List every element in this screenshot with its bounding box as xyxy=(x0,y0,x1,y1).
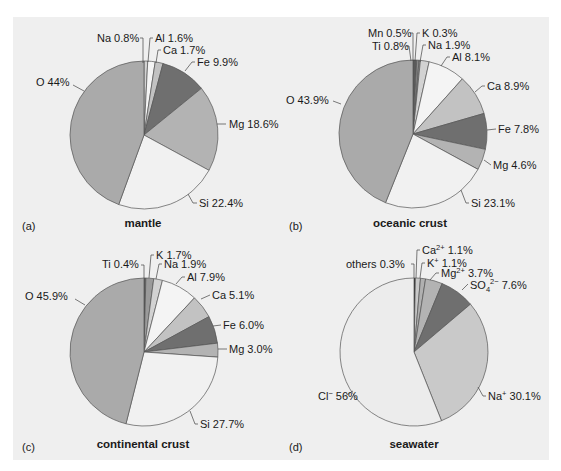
leader-ca2 xyxy=(416,250,420,278)
leader-al xyxy=(441,57,450,66)
leader-si xyxy=(190,411,198,424)
label-oceanic-si: Si 23.1% xyxy=(471,197,515,209)
leader-mg2 xyxy=(430,273,439,280)
pie-chart-mantle: Na 0.8% Al 1.6% Ca 1.7% Fe 9.9% Mg 18.6%… xyxy=(22,32,279,232)
chart-title-continental-crust: continental crust xyxy=(97,438,190,450)
label-continental-na: Na 1.9% xyxy=(164,258,206,270)
label-oceanic-ca: Ca 8.9% xyxy=(487,80,529,92)
chart-title-mantle: mantle xyxy=(124,217,161,229)
leader-k xyxy=(420,263,425,278)
pie-slices-oceanic-crust xyxy=(339,60,487,208)
leader-ca xyxy=(475,86,485,92)
leader-o xyxy=(75,299,85,305)
leader-na xyxy=(420,45,426,62)
leader-na xyxy=(156,264,162,279)
leader-fe xyxy=(487,129,496,130)
label-seawater-na: Na+ 30.1% xyxy=(488,389,541,402)
label-oceanic-al: Al 8.1% xyxy=(452,51,490,63)
label-seawater-so4: SO42− 7.6% xyxy=(470,277,527,294)
pie-chart-seawater: others 0.3% Ca2+ 1.1% K+ 1.1% Mg2+ 3.7% … xyxy=(289,243,541,453)
pie-slices-seawater xyxy=(340,278,488,426)
label-continental-ti: Ti 0.4% xyxy=(102,258,139,270)
label-oceanic-k: K 0.3% xyxy=(422,27,458,39)
leader-so4 xyxy=(462,284,468,290)
label-continental-fe: Fe 6.0% xyxy=(223,319,264,331)
leader-o xyxy=(73,85,84,91)
leader-ca xyxy=(201,295,210,299)
leader-ti xyxy=(141,265,144,278)
label-mantle-o: O 44% xyxy=(36,76,70,88)
leader-al xyxy=(176,277,185,284)
label-mantle-fe: Fe 9.9% xyxy=(197,56,238,68)
chart-title-oceanic-crust: oceanic crust xyxy=(373,217,447,229)
leader-k xyxy=(149,255,154,278)
label-mantle-na: Na 0.8% xyxy=(97,32,139,44)
leader-others xyxy=(411,264,414,278)
chart-title-seawater: seawater xyxy=(389,438,439,450)
leader-al xyxy=(148,38,153,62)
label-oceanic-mn: Mn 0.5% xyxy=(368,27,412,39)
label-oceanic-mg: Mg 4.6% xyxy=(493,159,537,171)
label-oceanic-fe: Fe 7.8% xyxy=(498,123,539,135)
leader-mg xyxy=(484,160,491,165)
panel-tag-d: (d) xyxy=(289,441,302,453)
label-mantle-ca: Ca 1.7% xyxy=(163,44,205,56)
element-composition-figure: Na 0.8% Al 1.6% Ca 1.7% Fe 9.9% Mg 18.6%… xyxy=(0,0,561,471)
leader-fe xyxy=(185,62,195,71)
label-mantle-mg: Mg 18.6% xyxy=(229,118,279,130)
label-mantle-al: Al 1.6% xyxy=(155,32,193,44)
label-oceanic-na: Na 1.9% xyxy=(428,39,470,51)
leader-si xyxy=(188,194,197,203)
leader-si xyxy=(461,190,469,203)
pie-slices-mantle xyxy=(70,61,218,209)
label-continental-mg: Mg 3.0% xyxy=(229,343,273,355)
label-continental-si: Si 27.7% xyxy=(200,418,244,430)
leader-k xyxy=(415,33,420,61)
label-seawater-others: others 0.3% xyxy=(346,258,405,270)
leader-na xyxy=(478,387,486,396)
panel-tag-b: (b) xyxy=(289,220,302,232)
pie-chart-oceanic-crust: Mn 0.5% Ti 0.8% K 0.3% Na 1.9% Al 8.1% C… xyxy=(286,27,539,232)
leader-o xyxy=(333,101,341,104)
leader-na xyxy=(140,38,143,63)
label-seawater-cl: Cl− 56% xyxy=(318,389,358,402)
pie-chart-continental-crust: Ti 0.4% K 1.7% Na 1.9% Al 7.9% Ca 5.1% F… xyxy=(22,249,273,453)
leader-ca xyxy=(156,50,161,63)
label-continental-ca: Ca 5.1% xyxy=(212,289,254,301)
leader-fe xyxy=(213,325,221,326)
label-continental-o: O 45.9% xyxy=(25,290,68,302)
label-seawater-ca2: Ca2+ 1.1% xyxy=(422,243,473,256)
label-mantle-si: Si 22.4% xyxy=(199,197,243,209)
label-oceanic-ti: Ti 0.8% xyxy=(372,40,409,52)
label-oceanic-o: O 43.9% xyxy=(286,94,329,106)
pie-slices-continental-crust xyxy=(70,278,218,426)
label-continental-al: Al 7.9% xyxy=(187,271,225,283)
panel-tag-a: (a) xyxy=(22,220,35,232)
label-seawater-mg2: Mg2+ 3.7% xyxy=(441,266,493,279)
panel-tag-c: (c) xyxy=(22,441,35,453)
